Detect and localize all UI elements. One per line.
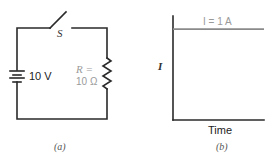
x-axis-label: Time	[208, 124, 232, 136]
battery-symbol	[10, 71, 24, 82]
resistor-symbol	[103, 58, 111, 89]
wire-left-top	[17, 28, 50, 70]
circuit-diagram: S 10 V R = 10 Ω (a)	[10, 12, 111, 153]
figure: S 10 V R = 10 Ω (a) I = 1 A I Time (b)	[0, 0, 279, 161]
series-label: I = 1 A	[203, 16, 232, 27]
caption-b: (b)	[216, 141, 228, 153]
switch-blade	[50, 12, 66, 28]
switch-label: S	[57, 27, 63, 39]
caption-a: (a)	[54, 141, 66, 153]
current-time-graph: I = 1 A I Time (b)	[157, 16, 264, 153]
y-axis-label: I	[157, 60, 163, 72]
wire-bottom	[17, 82, 107, 119]
resistor-label-value: 10 Ω	[76, 76, 98, 87]
wire-top-right	[72, 28, 107, 58]
battery-label: 10 V	[29, 70, 52, 82]
resistor-label-name: R =	[75, 63, 93, 75]
